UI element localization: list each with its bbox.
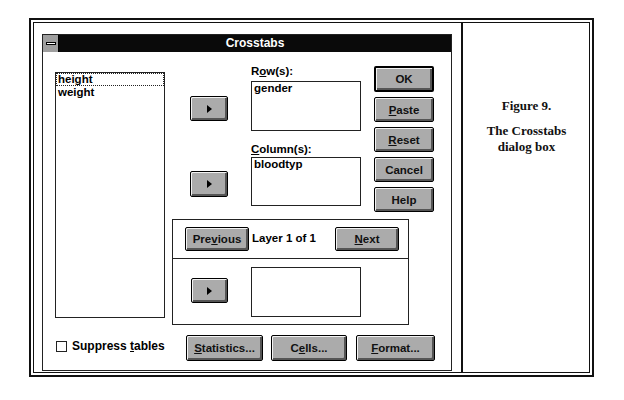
layer-divider (172, 258, 409, 259)
cells-button[interactable]: Cells... (271, 335, 347, 361)
figure-number: Figure 9. (463, 98, 590, 114)
help-button[interactable]: Help (374, 187, 434, 212)
move-to-rows-button[interactable] (190, 96, 228, 121)
system-menu-icon (46, 42, 56, 45)
list-item[interactable]: bloodtyp (252, 158, 360, 171)
ok-button[interactable]: OK (374, 66, 434, 92)
source-variable-list[interactable]: height weight (55, 72, 165, 318)
next-layer-button[interactable]: Next (335, 227, 399, 251)
caption-line-1: The Crosstabs (463, 123, 590, 139)
columns-label: Column(s): (251, 143, 312, 155)
right-arrow-icon (207, 105, 212, 113)
caption-line-2: dialog box (463, 139, 590, 155)
reset-button[interactable]: Reset (374, 127, 434, 152)
layer-list[interactable] (251, 267, 361, 317)
rows-list[interactable]: gender (251, 81, 361, 131)
paste-button[interactable]: Paste (374, 97, 434, 122)
statistics-button[interactable]: Statistics... (186, 335, 263, 361)
suppress-tables-checkbox[interactable] (56, 341, 67, 352)
list-item[interactable]: weight (56, 86, 164, 99)
list-item[interactable]: height (56, 73, 164, 86)
move-to-columns-button[interactable] (190, 171, 228, 197)
rows-label: Row(s): (251, 65, 293, 77)
move-to-layer-button[interactable] (191, 278, 228, 303)
cancel-button[interactable]: Cancel (374, 157, 434, 182)
format-button[interactable]: Format... (356, 335, 435, 361)
dialog-title: Crosstabs (59, 35, 451, 52)
suppress-tables-label[interactable]: Suppress tables (72, 339, 165, 353)
layer-status: Layer 1 of 1 (252, 232, 316, 244)
right-arrow-icon (207, 180, 212, 188)
right-arrow-icon (207, 287, 212, 295)
figure-caption: Figure 9. The Crosstabs dialog box (463, 98, 590, 155)
columns-list[interactable]: bloodtyp (251, 157, 361, 206)
previous-layer-button[interactable]: Previous (185, 227, 249, 251)
list-item[interactable]: gender (252, 82, 360, 95)
figure-divider (461, 22, 463, 373)
